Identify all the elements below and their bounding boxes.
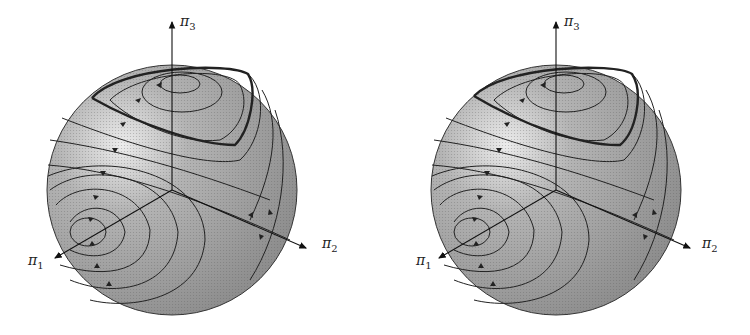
- left-sphere-panel: π3 π1 π2: [0, 0, 375, 335]
- axis-label-pi3: π3: [180, 13, 196, 32]
- axis-label-pi3: π3: [564, 13, 580, 32]
- axis-label-pi2: π2: [322, 235, 338, 254]
- left-sphere-diagram: [0, 0, 375, 335]
- right-sphere-panel: π3 π1 π2: [384, 0, 750, 335]
- axis-label-pi1: π1: [28, 252, 44, 271]
- axis-label-pi2: π2: [702, 235, 718, 254]
- right-sphere-diagram: [384, 0, 750, 335]
- axis-label-pi1: π1: [416, 252, 432, 271]
